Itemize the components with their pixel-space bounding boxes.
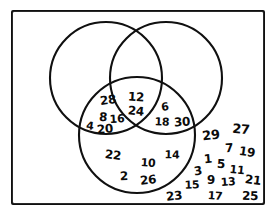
number-29: 29 [202, 127, 221, 142]
number-4: 4 [86, 120, 95, 132]
number-18: 18 [154, 116, 169, 128]
number-28: 28 [99, 93, 116, 107]
number-12: 12 [128, 91, 145, 104]
number-25: 25 [242, 190, 258, 202]
number-26: 26 [139, 173, 156, 187]
number-23: 23 [165, 189, 182, 203]
number-9: 9 [207, 174, 215, 186]
number-27: 27 [232, 122, 251, 136]
number-10: 10 [140, 157, 155, 169]
number-21: 21 [244, 173, 261, 187]
number-15: 15 [184, 179, 199, 191]
number-2: 2 [120, 170, 128, 182]
number-5: 5 [217, 158, 226, 170]
number-7: 7 [225, 142, 234, 154]
number-13: 13 [220, 176, 235, 188]
number-17: 17 [207, 190, 222, 202]
number-20: 20 [96, 122, 113, 135]
venn-diagram-canvas: 2881642012246183022210261429277191511391… [0, 0, 279, 218]
number-24: 24 [127, 104, 144, 118]
number-19: 19 [238, 145, 256, 159]
number-22: 22 [104, 148, 121, 162]
number-6: 6 [161, 101, 170, 113]
number-3: 3 [193, 164, 203, 177]
number-14: 14 [165, 149, 180, 160]
number-1: 1 [203, 153, 212, 166]
number-30: 30 [174, 115, 191, 128]
